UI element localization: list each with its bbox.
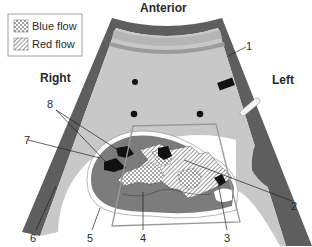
heart — [87, 131, 238, 218]
callout-8: 8 — [47, 98, 53, 110]
leader-5 — [92, 208, 100, 230]
left-label: Left — [272, 73, 294, 87]
legend-blue-flow-label: Blue flow — [32, 20, 77, 32]
callout-3: 3 — [224, 232, 230, 244]
callout-6: 6 — [30, 232, 36, 244]
doppler-diagram: Anterior Right Left 1 2 3 4 5 6 7 8 Blue… — [0, 0, 312, 247]
red-flow-swatch — [14, 38, 28, 50]
legend-red-flow-label: Red flow — [32, 38, 75, 50]
white-notch — [214, 188, 232, 202]
callout-1: 1 — [246, 40, 252, 52]
anterior-label: Anterior — [140, 1, 187, 15]
callout-5: 5 — [87, 232, 93, 244]
callout-2: 2 — [291, 200, 297, 212]
marker-dot — [131, 111, 138, 118]
marker-dot — [132, 79, 138, 85]
legend: Blue flow Red flow — [8, 14, 82, 56]
marker-dot — [197, 111, 204, 118]
blue-flow-swatch — [14, 20, 28, 32]
callout-7: 7 — [24, 134, 30, 146]
callout-4: 4 — [140, 232, 146, 244]
right-label: Right — [40, 71, 71, 85]
